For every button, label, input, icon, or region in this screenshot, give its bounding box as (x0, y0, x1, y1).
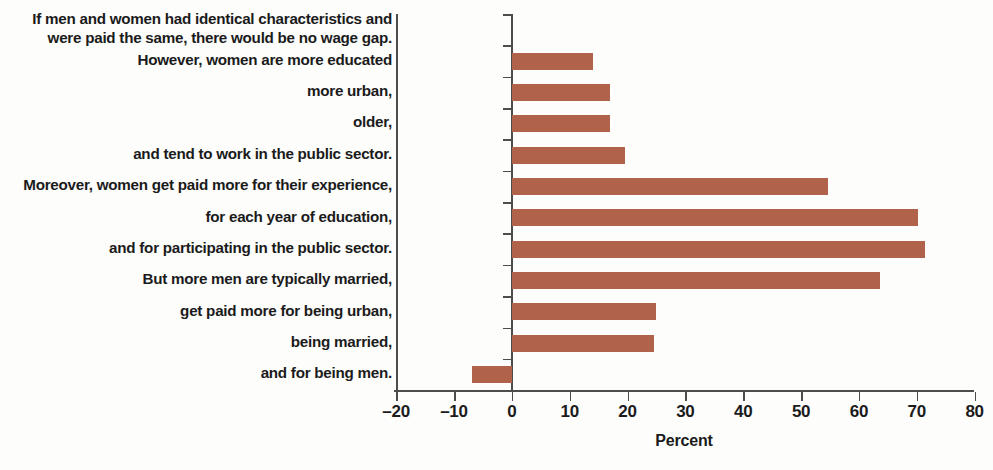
x-axis-tick (628, 392, 630, 401)
y-axis-tick (503, 202, 512, 204)
x-axis-tick-label: 80 (945, 402, 993, 422)
bar (512, 303, 657, 320)
x-axis-tick (801, 392, 803, 401)
wage-gap-bar-chart: If men and women had identical character… (0, 0, 993, 470)
bar (512, 209, 918, 226)
bar (512, 84, 610, 101)
x-axis-tick-label: 30 (655, 402, 715, 422)
x-axis-tick (396, 392, 398, 401)
plot-area: –20–1001020304050607080 Percent (0, 0, 993, 470)
y-axis-tick (503, 45, 512, 47)
y-axis-tick (503, 108, 512, 110)
bar (512, 147, 625, 164)
x-axis-tick-label: 40 (713, 402, 773, 422)
x-axis-tick (975, 392, 977, 401)
y-axis-tick (503, 359, 512, 361)
x-axis-tick (512, 392, 514, 401)
x-axis-tick-label: 60 (829, 402, 889, 422)
x-axis-title: Percent (394, 432, 974, 450)
x-axis-tick-label: 0 (482, 402, 542, 422)
bar (512, 272, 881, 289)
x-axis-tick (917, 392, 919, 401)
x-axis-tick (570, 392, 572, 401)
y-axis-tick (503, 390, 512, 392)
y-axis-tick (503, 233, 512, 235)
bar (512, 53, 593, 70)
x-axis-line (394, 390, 974, 392)
y-axis-tick (503, 139, 512, 141)
x-axis-tick-label: –20 (366, 402, 426, 422)
x-axis-tick (454, 392, 456, 401)
x-axis-tick-label: 50 (771, 402, 831, 422)
y-axis-tick (503, 14, 512, 16)
bar (472, 366, 511, 383)
x-axis-tick (685, 392, 687, 401)
x-axis-tick-label: 70 (887, 402, 947, 422)
x-axis-tick (743, 392, 745, 401)
y-axis-tick (503, 77, 512, 79)
bar (512, 178, 828, 195)
y-axis-tick (503, 265, 512, 267)
bar (512, 335, 654, 352)
x-axis-tick (859, 392, 861, 401)
bar (512, 241, 926, 258)
x-axis-tick-label: –10 (424, 402, 484, 422)
x-axis-tick-label: 10 (540, 402, 600, 422)
y-axis-tick (503, 296, 512, 298)
bar (512, 115, 610, 132)
x-axis-tick-label: 20 (598, 402, 658, 422)
y-axis-tick (503, 328, 512, 330)
y-axis-tick (503, 171, 512, 173)
